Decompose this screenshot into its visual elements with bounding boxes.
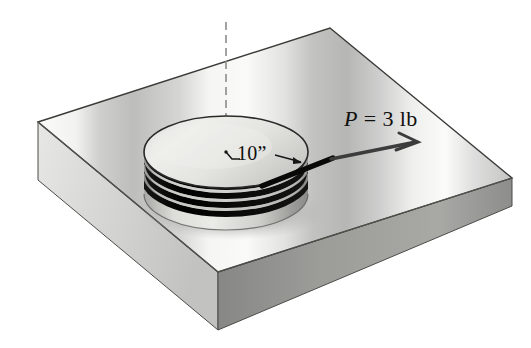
drum-center-point [224,150,227,153]
diagram-canvas [0,0,531,348]
force-symbol: P [344,106,358,131]
drum-diameter-label: 10” [237,143,266,163]
force-relation: = [364,106,377,131]
applied-force-label: P = 3 lb [344,108,418,130]
force-magnitude: 3 [382,106,393,131]
drum-group [144,116,308,230]
force-unit: lb [400,106,418,131]
figure-root: P = 3 lb 10” [0,0,531,348]
